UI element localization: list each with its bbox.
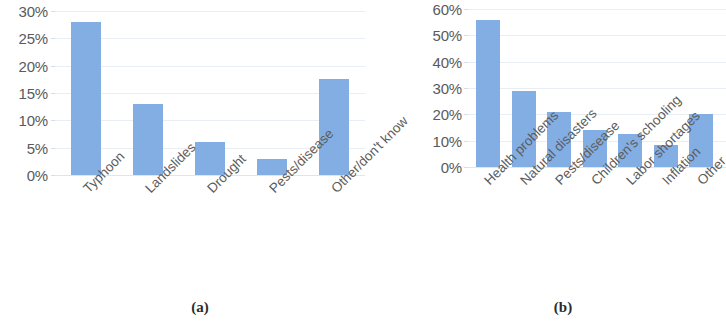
bar	[71, 22, 101, 175]
y-axis-tick-label: 10%	[433, 133, 462, 148]
y-axis-tick-label: 10%	[19, 113, 48, 128]
bar	[319, 79, 349, 175]
plot-area-b	[468, 9, 726, 167]
bar	[476, 20, 500, 167]
figure-container: 0%5%10%15%20%25%30% TyphoonLandslidesDro…	[0, 0, 726, 324]
y-axis-tick-label: 60%	[433, 2, 462, 17]
gridline	[55, 175, 365, 176]
bar	[512, 91, 536, 167]
y-axis-tick-label: 30%	[19, 4, 48, 19]
y-axis-tick-label: 20%	[19, 58, 48, 73]
y-axis-tick-label: 0%	[441, 160, 462, 175]
bar	[547, 112, 571, 167]
y-axis-tick-label: 0%	[27, 168, 48, 183]
bar	[654, 145, 678, 167]
bar-series-b	[468, 9, 726, 167]
y-axis-tick	[51, 175, 55, 176]
y-axis-tick	[464, 167, 468, 168]
y-axis-tick-label: 30%	[433, 81, 462, 96]
y-axis-tick-label: 20%	[433, 107, 462, 122]
bar-series-a	[55, 11, 365, 175]
bar	[583, 130, 607, 167]
y-axis-tick-label: 25%	[19, 31, 48, 46]
bar	[618, 134, 642, 167]
plot-area-a	[55, 11, 365, 175]
gridline	[468, 167, 726, 168]
panel-caption-b: (b)	[400, 299, 726, 316]
bar	[195, 142, 225, 175]
y-axis-tick-label: 5%	[27, 140, 48, 155]
panel-caption-a: (a)	[0, 299, 400, 316]
y-axis-tick-label: 40%	[433, 54, 462, 69]
y-axis-tick-label: 15%	[19, 86, 48, 101]
chart-panel-b: 0%10%20%30%40%50%60% Health problemsNatu…	[400, 0, 726, 324]
bar	[257, 159, 287, 175]
chart-panel-a: 0%5%10%15%20%25%30% TyphoonLandslidesDro…	[0, 0, 400, 324]
bar	[689, 114, 713, 167]
bar	[133, 104, 163, 175]
y-axis-tick-label: 50%	[433, 28, 462, 43]
